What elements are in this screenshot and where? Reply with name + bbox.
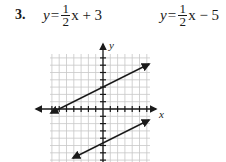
y-axis-label: y bbox=[108, 39, 114, 51]
line-1 bbox=[51, 64, 149, 113]
line-2 bbox=[73, 120, 149, 158]
coordinate-graph: x y bbox=[0, 0, 226, 162]
x-axis-label: x bbox=[158, 108, 164, 120]
